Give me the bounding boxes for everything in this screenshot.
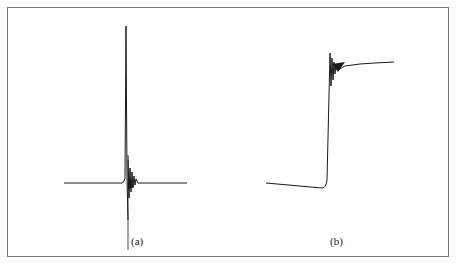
panel-a-label: (a): [131, 235, 143, 247]
waveform-plots: [0, 0, 457, 265]
panel-a-trace: [64, 26, 187, 250]
panel-b-trace: [266, 53, 394, 188]
panel-b-label: (b): [330, 235, 343, 247]
